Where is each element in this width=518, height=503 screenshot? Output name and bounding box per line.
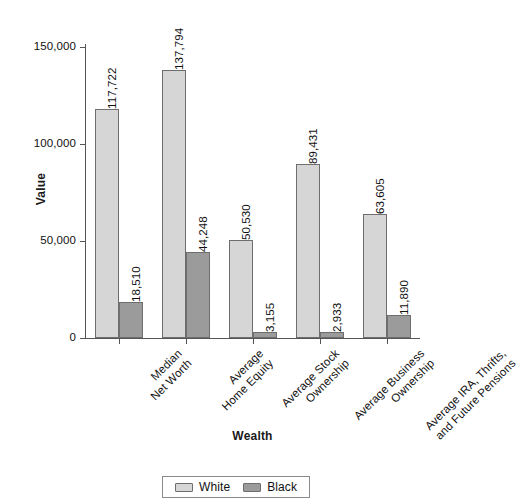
y-tick-label: 50,000	[40, 234, 76, 246]
bar-value-label: 63,605	[374, 179, 386, 215]
x-axis-title: Wealth	[85, 429, 420, 443]
bar-value-label: 137,794	[173, 28, 185, 70]
x-tick-mark	[119, 339, 120, 344]
bar-value-label: 50,530	[240, 204, 252, 240]
y-tick-50000: 50,000	[0, 234, 76, 248]
bar-value-label: 44,248	[197, 216, 209, 252]
x-tick-mark	[320, 339, 321, 344]
x-tick-mark	[186, 339, 187, 344]
y-axis-line	[85, 44, 86, 339]
bar-white-1[interactable]	[95, 109, 119, 338]
x-tick-label-4: Average BusinessOwnership	[351, 347, 437, 433]
legend-label: Black	[267, 480, 297, 494]
y-axis-title: Value	[34, 144, 48, 234]
y-tick-label: 100,000	[34, 137, 76, 149]
bar-white-3[interactable]	[229, 240, 253, 338]
bar-value-label: 2,933	[331, 303, 343, 332]
y-tick-label: 0	[70, 331, 77, 343]
legend-swatch-icon	[175, 483, 193, 492]
legend-entry-white[interactable]: White	[175, 480, 230, 494]
bar-black-2[interactable]	[186, 252, 210, 338]
legend-entry-black[interactable]: Black	[243, 480, 297, 494]
x-tick-label-line: Average IRA, Thrifts,	[422, 347, 508, 433]
bar-black-5[interactable]	[387, 315, 411, 338]
x-tick-label-3: Average StockOwnership	[279, 347, 352, 420]
x-tick-mark	[387, 339, 388, 344]
legend: White Black	[162, 476, 310, 498]
bar-white-2[interactable]	[162, 70, 186, 338]
x-tick-label-line: and Future Pensions	[432, 357, 518, 443]
bar-black-1[interactable]	[119, 302, 143, 338]
y-tick-label: 150,000	[34, 40, 76, 52]
bar-black-3[interactable]	[253, 332, 277, 338]
bar-value-label: 3,155	[264, 303, 276, 332]
y-tick-0: 0	[0, 331, 76, 345]
bar-value-label: 11,890	[398, 280, 410, 315]
legend-swatch-icon	[243, 483, 261, 492]
x-tick-label-1: MedianNet Worth	[138, 347, 194, 403]
bar-black-4[interactable]	[320, 332, 344, 338]
x-tick-mark	[253, 339, 254, 344]
legend-label: White	[199, 480, 230, 494]
bar-value-label: 89,431	[307, 128, 319, 164]
y-tick-100000: 100,000	[0, 137, 76, 151]
x-tick-label-5: Average IRA, Thrifts,and Future Pensions	[422, 347, 518, 443]
bar-value-label: 18,510	[130, 266, 142, 302]
bar-value-label: 117,722	[106, 68, 118, 109]
bar-white-4[interactable]	[296, 164, 320, 338]
x-tick-label-2: AverageHome Equity	[209, 347, 275, 413]
y-tick-150000: 150,000	[0, 40, 76, 54]
bar-white-5[interactable]	[363, 214, 387, 338]
